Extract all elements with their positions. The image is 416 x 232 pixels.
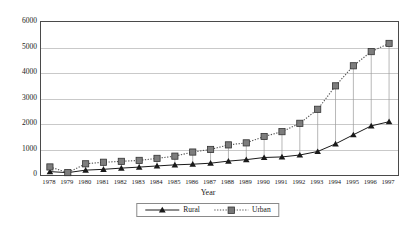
- plot-area: [40, 21, 399, 176]
- data-point-urban: [47, 164, 53, 170]
- data-point-urban: [154, 155, 160, 161]
- chart-container: 0100020003000400050006000 19781979198019…: [0, 0, 416, 232]
- data-point-urban: [350, 63, 356, 69]
- data-point-urban: [261, 133, 267, 139]
- series-line-urban: [50, 43, 389, 172]
- data-point-urban: [172, 153, 178, 159]
- series-layer: [41, 22, 398, 175]
- chart-legend: Rural Urban: [136, 203, 279, 217]
- data-point-urban: [100, 159, 106, 165]
- y-tick-label: 5000: [3, 43, 37, 51]
- data-point-urban: [315, 106, 321, 112]
- data-point-urban: [368, 49, 374, 55]
- y-tick-label: 4000: [3, 68, 37, 76]
- data-point-urban: [207, 146, 213, 152]
- data-point-urban: [279, 129, 285, 135]
- x-tick-label: 1997: [375, 178, 401, 186]
- data-point-urban: [297, 120, 303, 126]
- data-point-rural: [332, 141, 339, 147]
- y-tick-label: 2000: [3, 119, 37, 127]
- legend-label-rural: Rural: [183, 206, 200, 214]
- y-tick-label: 1000: [3, 145, 37, 153]
- data-point-urban: [332, 83, 338, 89]
- data-point-urban: [83, 161, 89, 167]
- data-point-urban: [243, 140, 249, 146]
- y-tick-label: 6000: [3, 17, 37, 25]
- y-axis-tick-labels: 0100020003000400050006000: [0, 0, 37, 200]
- data-point-rural: [386, 119, 393, 125]
- data-point-rural: [314, 148, 321, 154]
- data-point-urban: [386, 40, 392, 46]
- legend-label-urban: Urban: [252, 206, 271, 214]
- rural-line-swatch: [145, 206, 179, 214]
- legend-item-rural[interactable]: Rural: [145, 206, 200, 214]
- data-point-rural: [350, 132, 357, 138]
- y-tick-label: 3000: [3, 94, 37, 102]
- data-point-urban: [118, 158, 124, 164]
- data-point-urban: [65, 170, 71, 176]
- urban-line-swatch: [214, 206, 248, 214]
- data-point-urban: [190, 149, 196, 155]
- data-point-urban: [225, 142, 231, 148]
- y-tick-label: 0: [3, 170, 37, 178]
- x-axis-title: Year: [0, 188, 416, 197]
- legend-item-urban[interactable]: Urban: [214, 206, 271, 214]
- data-point-urban: [136, 157, 142, 163]
